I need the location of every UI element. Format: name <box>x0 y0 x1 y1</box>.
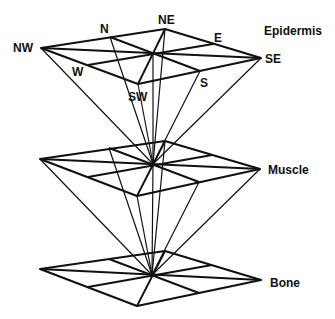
layer-label-epidermis: Epidermis <box>264 24 322 38</box>
label-s: S <box>200 76 208 90</box>
layer-label-bone: Bone <box>270 276 300 290</box>
label-ne: NE <box>158 13 175 27</box>
label-se: SE <box>265 52 281 66</box>
label-nw: NW <box>13 41 34 55</box>
label-n: N <box>100 22 109 36</box>
layer-label-muscle: Muscle <box>268 163 309 177</box>
layer-diagram: NW N NE E SE S SW W Epidermis Muscle Bon… <box>0 0 335 319</box>
label-sw: SW <box>128 90 148 104</box>
plane-bone <box>40 251 261 306</box>
label-w: W <box>72 65 84 79</box>
label-e: E <box>214 31 222 45</box>
